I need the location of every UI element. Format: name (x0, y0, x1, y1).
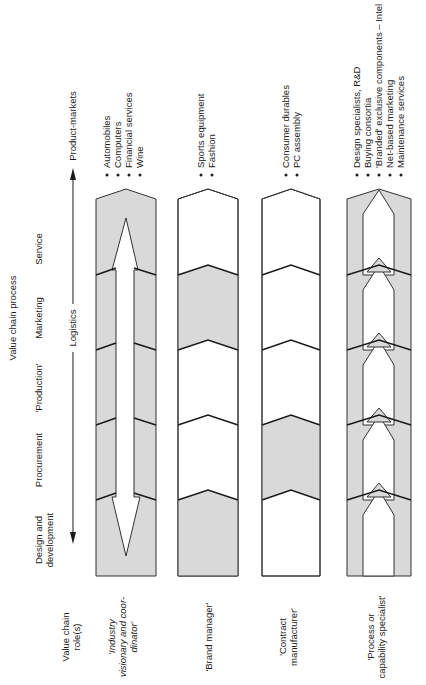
role-industry-line3: dinator' (128, 620, 139, 652)
product-item: Buying consortia (362, 97, 373, 168)
stage-service: Service (33, 233, 44, 265)
arrow-up-icon (70, 168, 76, 180)
product-item: 'Branded' exclusive components – Intel (373, 4, 384, 168)
header-labels: Value chain process Service Marketing 'P… (7, 233, 55, 567)
product-item: Wine (134, 146, 145, 168)
product-list-4: Design specialists, R&D Buying consortia… (351, 4, 406, 177)
value-chain-diagram: Value chain process Service Marketing 'P… (0, 0, 426, 685)
role-process-line1: 'Process or (365, 613, 376, 660)
column-brand-manager: Sports equipment Fashion (178, 93, 238, 576)
role-labels: Value chain role(s) 'Industry visionary … (60, 595, 387, 678)
column-contract-manufacturer: Consumer durables PC assembly (262, 85, 320, 576)
header-title: Value chain process (7, 275, 18, 360)
stage-procurement: Procurement (33, 432, 44, 487)
stage-marketing: Marketing (33, 297, 44, 339)
stage-production: 'Production' (33, 363, 44, 412)
logistics-label: Logistics (67, 309, 78, 346)
product-item: PC assembly (291, 112, 302, 168)
product-item: Maintenance services (395, 76, 406, 168)
roles-header-line1: Value chain (60, 613, 71, 662)
product-item: Automobiles (101, 115, 112, 168)
stage-design-line1: Design and (33, 516, 44, 564)
product-item: Consumer durables (280, 85, 291, 168)
arrow-down-icon (70, 532, 76, 544)
product-list-3: Consumer durables PC assembly (280, 85, 302, 177)
roles-header-line2: role(s) (71, 624, 82, 651)
role-contract-line1: 'Contract (277, 618, 288, 656)
product-item: Net-based marketing (384, 80, 395, 168)
product-list-1: Automobiles Computers Financial services… (101, 92, 145, 176)
role-contract-line2: manufacturer' (288, 608, 299, 666)
product-item: Sports equipment (195, 93, 206, 168)
product-item: Computers (112, 121, 123, 168)
product-item: Design specialists, R&D (351, 66, 362, 168)
product-item: Fashion (206, 134, 217, 168)
product-markets-label: Product-markets (67, 91, 78, 161)
column-process-specialist: Design specialists, R&D Buying consortia… (347, 4, 411, 576)
logistics-axis: Logistics Product-markets (67, 91, 78, 544)
role-industry-line2: visionary and coor- (117, 597, 128, 677)
product-list-2: Sports equipment Fashion (195, 93, 217, 176)
product-item: Financial services (123, 92, 134, 168)
column-industry-visionary: Automobiles Computers Financial services… (96, 92, 156, 576)
role-industry-line1: 'Industry (106, 618, 117, 655)
role-process-line2: capability specialist' (376, 595, 387, 678)
stage-design-line2: development (44, 512, 55, 567)
role-brand-manager: 'Brand manager' (203, 602, 214, 671)
